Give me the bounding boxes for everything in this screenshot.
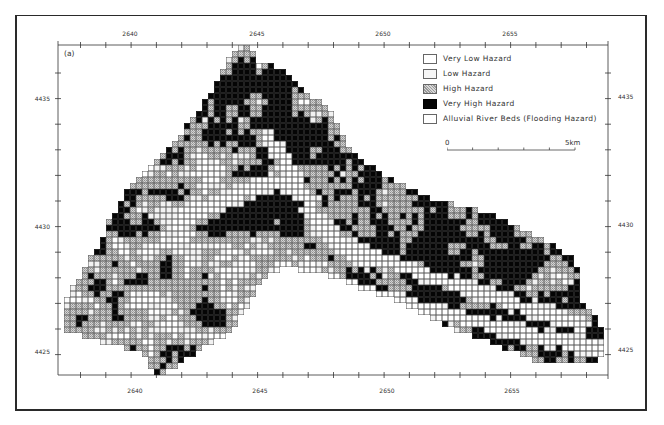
low-swatch-icon [423,69,437,79]
hazard-cells [64,45,604,375]
scale-bar: 0 5km [447,139,577,155]
very-high-swatch-icon [423,99,437,109]
legend-item-high: High Hazard [423,83,494,94]
flooding-swatch-icon [423,114,437,124]
legend-item-flooding: Alluvial River Beds (Flooding Hazard) [423,113,597,124]
svg-text:2640: 2640 [127,387,142,394]
svg-text:4425: 4425 [35,348,50,355]
very-low-swatch-icon [423,54,437,64]
legend-item-low: Low Hazard [423,68,491,79]
svg-text:2645: 2645 [249,30,264,37]
high-swatch-icon [423,84,437,94]
svg-text:2645: 2645 [252,387,267,394]
hazard-map: 2640264526502655264026452650265544354430… [0,0,664,425]
svg-text:4430: 4430 [35,223,50,230]
svg-text:2655: 2655 [502,30,517,37]
panel-label: (a) [64,49,74,58]
svg-text:4435: 4435 [35,95,50,102]
svg-text:2640: 2640 [122,30,137,37]
legend-item-very-high: Very High Hazard [423,98,515,109]
svg-text:2650: 2650 [375,30,390,37]
legend-item-very-low: Very Low Hazard [423,53,512,64]
scale-bar-line [447,139,577,155]
svg-text:2650: 2650 [379,387,394,394]
svg-text:4435: 4435 [618,93,633,100]
svg-text:2655: 2655 [504,387,519,394]
svg-text:4430: 4430 [618,221,633,228]
svg-text:4425: 4425 [618,346,633,353]
